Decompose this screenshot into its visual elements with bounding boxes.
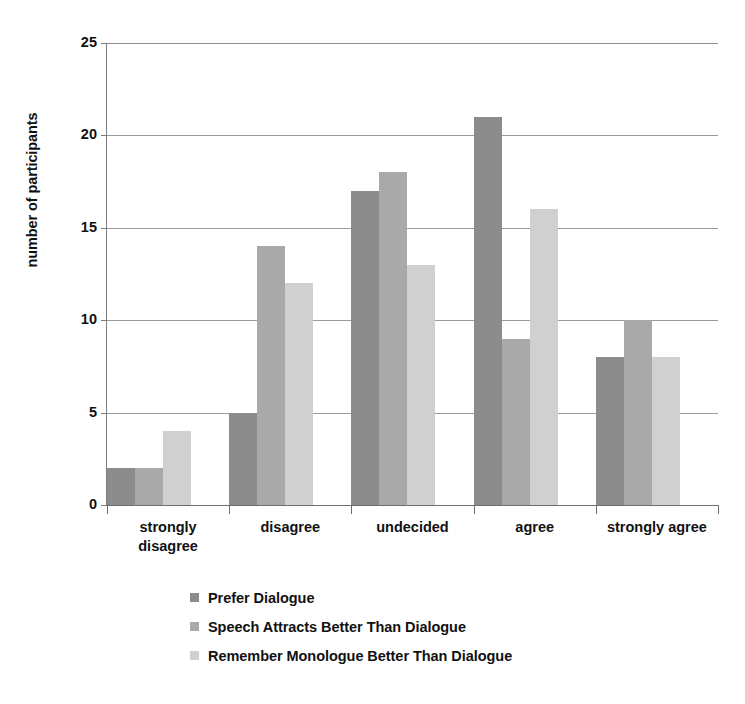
legend-swatch-remember-monologue [190, 651, 199, 660]
gridline-15 [107, 228, 718, 229]
x-axis-label-0-line-0: strongly [107, 518, 229, 537]
x-axis-line [107, 505, 719, 506]
x-axis-endcap-5 [718, 505, 719, 514]
x-axis-category-1: disagree [229, 518, 351, 537]
legend-swatch-prefer-dialogue [190, 593, 199, 602]
x-axis-separator-3 [474, 505, 475, 514]
y-tick-label-25: 25 [57, 35, 97, 50]
x-axis-category-0: stronglydisagree [107, 518, 229, 555]
bar-series-2-category-1 [285, 283, 313, 505]
legend-swatch-speech-attracts [190, 622, 199, 631]
bar-series-1-category-4 [624, 320, 652, 505]
legend-item-0[interactable]: Prefer Dialogue [190, 583, 610, 612]
legend-label-2: Remember Monologue Better Than Dialogue [208, 648, 512, 664]
bar-series-0-category-3 [474, 117, 502, 505]
legend-label-1: Speech Attracts Better Than Dialogue [208, 619, 466, 635]
bar-series-2-category-2 [407, 265, 435, 505]
gridline-25 [107, 43, 718, 44]
x-axis-label-3-line-0: agree [474, 518, 596, 537]
gridline-20 [107, 135, 718, 136]
bar-series-0-category-0 [107, 468, 135, 505]
y-tick-label-10: 10 [57, 312, 97, 327]
x-axis-category-2: undecided [351, 518, 473, 537]
x-axis-separator-4 [596, 505, 597, 514]
bar-series-0-category-4 [596, 357, 624, 505]
bar-series-0-category-1 [229, 413, 257, 505]
chart-legend: Prefer DialogueSpeech Attracts Better Th… [190, 583, 610, 670]
y-axis-title: number of participants [24, 90, 40, 290]
x-axis-label-1-line-0: disagree [229, 518, 351, 537]
x-axis-label-2-line-0: undecided [351, 518, 473, 537]
bar-series-0-category-2 [351, 191, 379, 505]
bar-series-2-category-4 [652, 357, 680, 505]
x-axis-label-0-line-1: disagree [107, 537, 229, 556]
x-axis-endcap-0 [107, 505, 108, 514]
bar-series-1-category-2 [379, 172, 407, 505]
bar-chart: number of participants 2520151050 strong… [0, 0, 745, 704]
bar-series-1-category-0 [135, 468, 163, 505]
bar-series-2-category-3 [530, 209, 558, 505]
bar-series-2-category-0 [163, 431, 191, 505]
legend-item-1[interactable]: Speech Attracts Better Than Dialogue [190, 612, 610, 641]
bar-series-1-category-3 [502, 339, 530, 505]
x-axis-separator-2 [351, 505, 352, 514]
legend-item-2[interactable]: Remember Monologue Better Than Dialogue [190, 641, 610, 670]
x-axis-category-4: strongly agree [596, 518, 718, 537]
y-tick-label-20: 20 [57, 127, 97, 142]
x-axis-category-3: agree [474, 518, 596, 537]
plot-area [107, 43, 718, 505]
y-tick-label-15: 15 [57, 220, 97, 235]
y-tick-label-0: 0 [57, 497, 97, 512]
x-axis-label-4-line-0: strongly agree [596, 518, 718, 537]
bar-series-1-category-1 [257, 246, 285, 505]
legend-label-0: Prefer Dialogue [208, 590, 314, 606]
y-tick-label-5: 5 [57, 405, 97, 420]
x-axis-separator-1 [229, 505, 230, 514]
